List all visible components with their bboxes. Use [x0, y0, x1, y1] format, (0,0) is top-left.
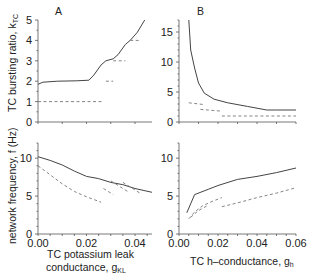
series-dashed-2: [104, 189, 114, 195]
x-axis-label-a-line2: conductance, gKL: [46, 261, 126, 274]
panel-a-label: A: [55, 5, 62, 17]
plot-panel-top-left: 012345: [26, 14, 152, 128]
y-axis-label-top: TC bursting ratio, kTC: [6, 14, 19, 112]
x-tick-label: 0.06: [285, 237, 306, 249]
y-tick-label: 5: [167, 190, 173, 202]
series-solid: [189, 20, 296, 110]
y-tick-label: 5: [26, 190, 32, 202]
y-tick-label: 1: [26, 96, 32, 108]
plot-panel-bottom-right: 05100.000.020.040.06: [161, 143, 307, 249]
x-tick-label: 0.00: [27, 237, 48, 249]
series-dashed-3: [222, 188, 296, 207]
y-tick-label: 5: [167, 86, 173, 98]
y-tick-label: 3: [26, 55, 32, 67]
y-tick-label: 10: [161, 56, 173, 68]
series-solid: [38, 157, 152, 193]
series-solid: [187, 168, 296, 213]
x-tick-label: 0.02: [207, 237, 228, 249]
y-tick-label: 0: [167, 116, 173, 128]
y-tick-label: 0: [26, 116, 32, 128]
panel-b-label: B: [197, 5, 204, 17]
axes: [179, 143, 296, 234]
figure: 01234505101505100.000.020.0405100.000.02…: [0, 0, 309, 278]
x-axis-label-a-line1: TC potassium leak: [47, 248, 135, 260]
y-tick-label: 2: [26, 75, 32, 87]
x-tick-label: 0.04: [246, 237, 267, 249]
plot-panel-top-right: 051015: [161, 20, 296, 128]
plot-panel-bottom-left: 05100.000.020.04: [20, 143, 152, 249]
series-dashed-1: [189, 103, 205, 105]
y-tick-label: 10: [161, 152, 173, 164]
x-axis-label-b: TC h–conductance, gh: [190, 255, 294, 268]
y-tick-label: 4: [26, 34, 32, 46]
series-dashed-1: [189, 198, 222, 219]
y-tick-label: 10: [20, 152, 32, 164]
y-tick-label: 5: [26, 14, 32, 26]
series-dashed-1: [38, 166, 101, 202]
y-axis-label-bottom: network frequency, f (Hz): [6, 127, 18, 244]
y-tick-label: 15: [161, 26, 173, 38]
series-dashed-2: [191, 205, 209, 217]
x-tick-label: 0.00: [168, 237, 189, 249]
axes: [179, 20, 296, 122]
series-dashed-3: [111, 181, 128, 192]
series-solid: [38, 20, 145, 84]
series-dashed-2: [200, 109, 222, 111]
